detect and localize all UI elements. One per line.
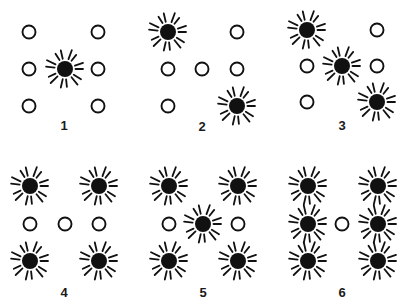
dice-lamp-diagram: 1 2 3 4 5 6 — [0, 0, 411, 308]
panel-6 — [289, 167, 396, 279]
lit-lamp-icon-bottom-left — [150, 242, 187, 279]
panel-3 — [288, 11, 395, 120]
lit-lamp-icon-bottom-left — [11, 242, 48, 279]
lit-lamp-icon-bottom-right — [359, 242, 396, 279]
unlit-lamp-icon-mid-right — [232, 218, 245, 231]
lit-lamp-icon-center — [184, 205, 221, 242]
panel-label-2: 2 — [198, 119, 205, 134]
lit-lamp-icon-bottom-right — [358, 83, 395, 120]
panel-1 — [23, 26, 105, 113]
unlit-lamp-icon-top-right — [92, 26, 105, 39]
lit-lamp-icon-center — [323, 47, 360, 84]
panel-label-5: 5 — [199, 285, 206, 300]
unlit-lamp-icon-bottom-left — [23, 100, 36, 113]
lit-lamp-icon-top-left — [149, 13, 186, 50]
panel-label-4: 4 — [60, 285, 67, 300]
unlit-lamp-icon-mid-left — [24, 218, 37, 231]
unlit-lamp-icon-bottom-left — [162, 100, 175, 113]
unlit-lamp-icon-mid-right — [93, 218, 106, 231]
unlit-lamp-icon-center — [59, 218, 72, 231]
panel-2 — [149, 13, 255, 124]
lit-lamp-icon-top-right — [80, 167, 117, 204]
unlit-lamp-icon-bottom-left — [301, 96, 314, 109]
lit-lamp-icon-mid-right — [359, 205, 396, 242]
unlit-lamp-icon-bottom-right — [92, 100, 105, 113]
panel-label-1: 1 — [60, 118, 67, 133]
lit-lamp-icon-bottom-right — [219, 242, 256, 279]
lit-lamp-icon-top-right — [359, 167, 396, 204]
unlit-lamp-icon-top-right — [371, 24, 384, 37]
unlit-lamp-icon-mid-left — [163, 218, 176, 231]
panel-label-6: 6 — [338, 285, 345, 300]
unlit-lamp-icon-mid-left — [23, 63, 36, 76]
unlit-lamp-icon-mid-right — [231, 63, 244, 76]
lit-lamp-icon-bottom-left — [289, 242, 326, 279]
lit-lamp-icon-top-left — [11, 167, 48, 204]
unlit-lamp-icon-center — [336, 218, 349, 231]
unlit-lamp-icon-center — [196, 63, 209, 76]
lit-lamp-icon-mid-left — [289, 205, 326, 242]
lamp-layer — [0, 0, 411, 308]
lit-lamp-icon-top-left — [288, 11, 325, 48]
lit-lamp-icon-top-left — [289, 167, 326, 204]
lit-lamp-icon-bottom-right — [80, 242, 117, 279]
unlit-lamp-icon-mid-right — [92, 63, 105, 76]
unlit-lamp-icon-mid-right — [371, 60, 384, 73]
panel-label-3: 3 — [338, 118, 345, 133]
unlit-lamp-icon-mid-left — [162, 63, 175, 76]
lit-lamp-icon-top-right — [219, 167, 256, 204]
lit-lamp-icon-bottom-right — [218, 87, 255, 124]
lit-lamp-icon-center — [46, 50, 83, 87]
unlit-lamp-icon-top-left — [23, 26, 36, 39]
panel-4 — [11, 167, 117, 279]
lit-lamp-icon-top-left — [150, 167, 187, 204]
unlit-lamp-icon-top-right — [231, 26, 244, 39]
unlit-lamp-icon-mid-left — [301, 60, 314, 73]
panel-5 — [150, 167, 256, 279]
